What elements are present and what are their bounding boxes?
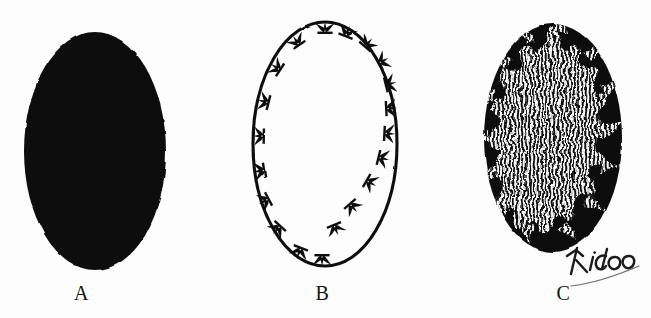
panel-c: C [434, 0, 651, 318]
figure-root: A [0, 0, 651, 318]
oval-solid-black [24, 32, 166, 270]
panel-a-graphic [0, 0, 217, 318]
panel-a: A [0, 0, 217, 318]
oval-striped-core-container [464, 10, 644, 270]
panel-label-b: B [214, 283, 431, 303]
panel-b-graphic [217, 0, 434, 318]
signature-kido [567, 248, 639, 286]
panel-b: B [217, 0, 434, 318]
panel-label-a: A [0, 283, 190, 303]
panel-label-c: C [455, 283, 651, 303]
panel-c-graphic [434, 0, 651, 318]
